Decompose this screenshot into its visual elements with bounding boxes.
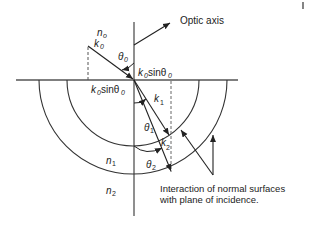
k1-label: k 1 [154,93,164,106]
svg-text:sinθ: sinθ [101,84,120,95]
k0-sin-theta0-left-label: k 0 sinθ 0 [91,84,125,96]
k0-label: k 0 [94,38,104,50]
svg-text:1: 1 [112,160,116,167]
theta0-label: θ 0 [118,51,128,63]
svg-text:2: 2 [166,144,170,151]
refracted-ray-k2 [134,80,171,171]
svg-text:2: 2 [152,164,156,171]
birefringence-diagram: Optic axis n o k 0 θ 0 k 0 sinθ 0 k 0 si… [0,0,309,226]
theta1-angle-arc [134,99,146,103]
inner-normal-surface-arc [67,80,199,146]
svg-text:1: 1 [160,99,164,106]
caption-line-1: Interaction of normal surfaces [160,183,285,194]
svg-text:0: 0 [124,56,128,63]
theta0-angle-arc [122,63,134,70]
theta1-label: θ 1 [144,122,154,134]
n1-label: n 1 [106,155,116,167]
svg-text:0: 0 [168,72,172,79]
caption-line-2: with plane of incidence. [159,194,259,205]
optic-axis-label: Optic axis [180,15,224,26]
svg-text:2: 2 [112,190,116,197]
k0-sin-theta0-top-label: k 0 sinθ 0 [138,67,172,79]
svg-text:o: o [103,32,107,39]
svg-text:0: 0 [121,89,125,96]
n2-label: n 2 [106,185,116,197]
theta2-label: θ 2 [146,159,156,171]
optic-axis-arrow [134,23,170,45]
theta2-angle-arc [134,146,162,152]
svg-text:sinθ: sinθ [148,67,167,78]
svg-text:1: 1 [150,127,154,134]
svg-text:0: 0 [100,43,104,50]
outer-normal-surface-arc [39,80,227,174]
